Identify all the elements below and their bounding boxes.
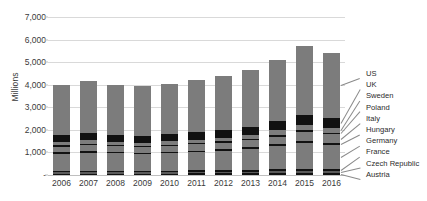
bar-segment-germany <box>269 146 286 169</box>
bar-2007[interactable] <box>80 81 97 175</box>
bar-segment-uk <box>53 135 70 142</box>
bar-segment-uk <box>242 127 259 135</box>
bar-segment-us <box>188 80 205 132</box>
bar-segment-uk <box>215 130 232 138</box>
legend-item-austria[interactable]: Austria <box>366 171 390 179</box>
bar-segment-us <box>215 76 232 130</box>
bar-segment-uk <box>269 121 286 130</box>
bar-2009[interactable] <box>134 86 151 175</box>
bar-segment-italy <box>296 132 313 141</box>
bar-segment-us <box>80 81 97 133</box>
bar-segment-austria <box>269 173 286 175</box>
legend-item-hungary[interactable]: Hungary <box>366 126 395 134</box>
plot-area <box>48 17 345 175</box>
bar-segment-uk <box>323 118 340 128</box>
y-axis-tick-label: 2,000 <box>4 126 46 135</box>
bar-segment-austria <box>215 173 232 175</box>
bar-segment-us <box>296 46 313 115</box>
bar-segment-austria <box>296 173 313 175</box>
bar-segment-us <box>323 53 340 118</box>
legend-item-germany[interactable]: Germany <box>366 137 397 145</box>
x-axis-tick-label: 2014 <box>263 178 293 188</box>
bar-segment-germany <box>107 153 124 170</box>
bar-2014[interactable] <box>269 60 286 175</box>
bar-segment-austria <box>80 174 97 175</box>
bar-segment-germany <box>161 153 178 170</box>
bar-2006[interactable] <box>53 85 70 175</box>
bar-segment-italy <box>323 134 340 142</box>
gridline <box>48 17 345 18</box>
bar-segment-us <box>107 85 124 135</box>
x-axis-tick-label: 2012 <box>209 178 239 188</box>
bar-2011[interactable] <box>188 80 205 175</box>
y-axis-tick-label: 4,000 <box>4 80 46 89</box>
legend-item-czech-republic[interactable]: Czech Republic <box>366 160 419 168</box>
x-axis: 2006200720082009201020112012201320142015… <box>48 178 345 192</box>
bar-segment-germany <box>242 149 259 169</box>
bar-2010[interactable] <box>161 84 178 175</box>
bar-segment-austria <box>134 174 151 175</box>
bar-segment-uk <box>107 135 124 142</box>
bar-segment-germany <box>323 145 340 169</box>
legend-item-us[interactable]: US <box>366 70 377 78</box>
legend-item-poland[interactable]: Poland <box>366 104 390 112</box>
bar-segment-austria <box>53 174 70 175</box>
bar-segment-austria <box>161 174 178 175</box>
y-axis-tick-label: - <box>4 171 46 180</box>
bar-2015[interactable] <box>296 46 313 175</box>
x-axis-tick-label: 2008 <box>101 178 131 188</box>
x-axis-tick-label: 2006 <box>47 178 77 188</box>
bar-segment-germany <box>80 153 97 171</box>
x-axis-tick-label: 2013 <box>236 178 266 188</box>
bar-segment-us <box>269 60 286 121</box>
bar-segment-us <box>134 86 151 136</box>
bar-segment-germany <box>296 143 313 169</box>
bar-segment-germany <box>134 154 151 171</box>
bar-segment-italy <box>269 137 286 145</box>
bar-segment-uk <box>161 134 178 141</box>
bar-segment-austria <box>242 173 259 175</box>
bar-segment-uk <box>296 115 313 126</box>
bar-segment-us <box>161 84 178 134</box>
bar-segment-uk <box>188 132 205 139</box>
y-axis-tick-label: 7,000 <box>4 13 46 22</box>
y-axis: -1,0002,0003,0004,0005,0006,0007,000 <box>0 0 46 201</box>
bar-segment-uk <box>134 136 151 143</box>
bar-segment-germany <box>188 152 205 170</box>
bar-segment-austria <box>323 173 340 175</box>
axis-baseline <box>48 175 345 176</box>
bar-2016[interactable] <box>323 53 340 175</box>
y-axis-tick-label: 3,000 <box>4 103 46 112</box>
gridline <box>48 40 345 41</box>
x-axis-tick-label: 2010 <box>155 178 185 188</box>
legend-item-uk[interactable]: UK <box>366 81 377 89</box>
legend-item-italy[interactable]: Italy <box>366 115 380 123</box>
y-axis-tick-label: 1,000 <box>4 148 46 157</box>
bar-segment-austria <box>107 174 124 175</box>
y-axis-tick-label: 5,000 <box>4 58 46 67</box>
stacked-bar-chart: Millions -1,0002,0003,0004,0005,0006,000… <box>0 0 427 201</box>
x-axis-tick-label: 2016 <box>317 178 347 188</box>
legend-item-sweden[interactable]: Sweden <box>366 92 393 100</box>
bar-segment-italy <box>242 140 259 147</box>
bar-segment-austria <box>188 173 205 175</box>
y-axis-tick-label: 6,000 <box>4 35 46 44</box>
bar-segment-germany <box>215 151 232 170</box>
bar-segment-us <box>242 70 259 126</box>
bar-segment-us <box>53 85 70 136</box>
bar-segment-uk <box>80 133 97 140</box>
x-axis-tick-label: 2011 <box>182 178 212 188</box>
legend-item-france[interactable]: France <box>366 148 390 156</box>
x-axis-tick-label: 2015 <box>290 178 320 188</box>
bar-2012[interactable] <box>215 76 232 175</box>
bar-2008[interactable] <box>107 85 124 175</box>
bar-2013[interactable] <box>242 70 259 175</box>
x-axis-tick-label: 2009 <box>128 178 158 188</box>
bar-segment-germany <box>53 154 70 171</box>
x-axis-tick-label: 2007 <box>74 178 104 188</box>
